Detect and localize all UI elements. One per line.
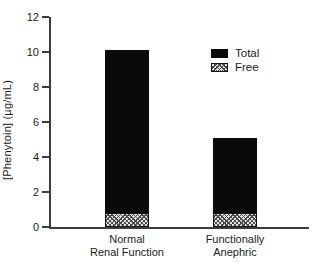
y-tick-mark: [42, 86, 49, 88]
bar-total-0: [105, 50, 149, 227]
legend-swatch-total: [211, 49, 228, 58]
y-tick-label: 4: [15, 151, 39, 164]
phenytoin-bar-chart: [Phenytoin] (µg/mL) 024681012 TotalFree …: [0, 0, 318, 262]
y-tick-mark: [42, 191, 49, 193]
bar-free-0: [105, 213, 149, 227]
y-tick-label: 8: [15, 81, 39, 94]
y-tick-mark: [42, 156, 49, 158]
y-tick-mark: [42, 16, 49, 18]
legend: TotalFree: [211, 46, 259, 74]
y-tick-label: 2: [15, 186, 39, 199]
legend-item-free: Free: [211, 60, 259, 74]
legend-label-total: Total: [235, 47, 259, 60]
bar-free-1: [213, 213, 257, 227]
plot-area: 024681012: [49, 17, 309, 229]
category-label-line: Functionally: [170, 233, 300, 246]
y-tick-mark: [42, 51, 49, 53]
y-tick-label: 10: [15, 46, 39, 59]
y-tick-mark: [42, 226, 49, 228]
category-label-1: FunctionallyAnephric: [170, 233, 300, 259]
legend-swatch-free: [211, 63, 228, 72]
category-label-line: Anephric: [170, 246, 300, 259]
y-tick-label: 12: [15, 11, 39, 24]
y-tick-label: 6: [15, 116, 39, 129]
legend-label-free: Free: [235, 61, 259, 74]
legend-item-total: Total: [211, 46, 259, 60]
y-tick-label: 0: [15, 221, 39, 234]
y-tick-mark: [42, 121, 49, 123]
